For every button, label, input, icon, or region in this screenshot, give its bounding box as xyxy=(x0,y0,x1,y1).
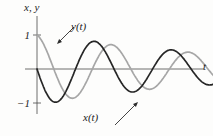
curve-label-x: x(t) xyxy=(83,111,98,123)
annotation-arrow-line xyxy=(115,104,136,125)
t-axis-label: t xyxy=(203,60,206,72)
curve-x xyxy=(37,41,213,102)
plot-area xyxy=(0,0,213,136)
y-tick-label-neg-1: −1 xyxy=(8,97,30,109)
y-axis-title: x, y xyxy=(24,1,39,13)
curve-label-y: y(t) xyxy=(71,20,86,32)
y-tick-label-1: 1 xyxy=(16,29,30,41)
damped-oscillations-figure: x, y 1 −1 y(t) x(t) t xyxy=(0,0,213,136)
